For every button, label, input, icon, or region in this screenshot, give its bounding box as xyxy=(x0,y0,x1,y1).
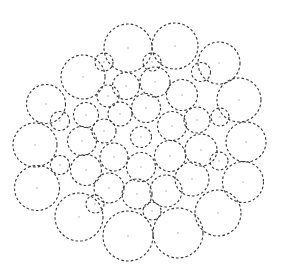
circle-center-dot xyxy=(219,116,221,118)
circle-center-dot xyxy=(151,61,153,63)
circle-center-dot xyxy=(108,187,110,189)
circle-packing-canvas xyxy=(0,0,288,273)
circle-center-dot xyxy=(245,141,247,143)
circle-center-dot xyxy=(127,47,129,49)
circle-center-dot xyxy=(200,71,202,73)
circle-center-dot xyxy=(78,216,80,218)
circle-center-dot xyxy=(177,232,179,234)
circle-center-dot xyxy=(81,140,83,142)
circle-center-dot xyxy=(82,76,84,78)
circle-center-dot xyxy=(125,85,127,87)
circle-center-dot xyxy=(103,61,105,63)
circle-center-dot xyxy=(181,94,183,96)
circle-center-dot xyxy=(94,203,96,205)
circle-center-dot xyxy=(136,193,138,195)
circles-layer xyxy=(13,23,266,261)
circle-center-dot xyxy=(127,235,129,237)
circle-center-dot xyxy=(140,136,142,138)
circle-center-dot xyxy=(238,99,240,101)
circle-center-dot xyxy=(34,144,36,146)
circle-center-dot xyxy=(119,113,121,115)
circle-center-dot xyxy=(59,164,61,166)
circle-center-dot xyxy=(107,95,109,97)
circle-center-dot xyxy=(85,169,87,171)
circle-center-dot xyxy=(218,62,220,64)
circle-center-dot xyxy=(191,178,193,180)
figure-root xyxy=(0,0,288,273)
circle-center-dot xyxy=(217,212,219,214)
circle-center-dot xyxy=(85,114,87,116)
circle-center-dot xyxy=(165,190,167,192)
circle-center-dot xyxy=(59,120,61,122)
circle-center-dot xyxy=(169,155,171,157)
circle-center-dot xyxy=(242,181,244,183)
circle-center-dot xyxy=(200,149,202,151)
circle-center-dot xyxy=(45,103,47,105)
circle-center-dot xyxy=(113,156,115,158)
circle-center-dot xyxy=(36,187,38,189)
circle-center-dot xyxy=(171,125,173,127)
circle-center-dot xyxy=(103,130,105,132)
circle-center-dot xyxy=(218,160,220,162)
circle-center-dot xyxy=(145,107,147,109)
circle-center-dot xyxy=(151,210,153,212)
circle-center-dot xyxy=(140,166,142,168)
circle-center-dot xyxy=(174,45,176,47)
circle-center-dot xyxy=(196,119,198,121)
circle-center-dot xyxy=(154,81,156,83)
